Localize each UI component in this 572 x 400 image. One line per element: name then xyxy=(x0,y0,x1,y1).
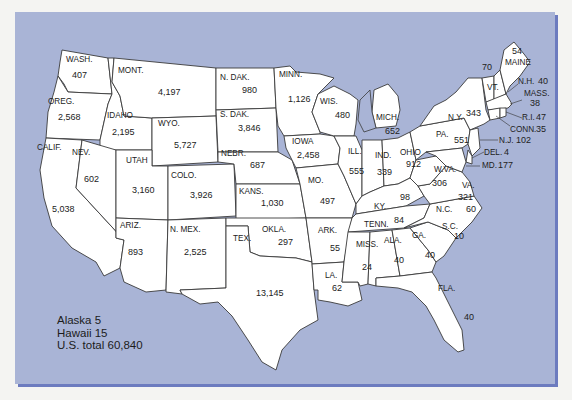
value-miss: 24 xyxy=(362,262,372,272)
value-ind: 339 xyxy=(377,167,392,177)
label-idaho: IDAHO xyxy=(107,111,133,120)
label-conn: CONN. xyxy=(510,125,536,134)
label-ark: ARK. xyxy=(318,226,337,235)
label-fla: FLA. xyxy=(438,284,455,293)
value-vt: 70 xyxy=(482,62,492,72)
label-calif: CALIF. xyxy=(37,143,62,152)
label-ga: GA. xyxy=(412,231,426,240)
label-pa: PA. xyxy=(436,130,449,139)
value-conn: 35 xyxy=(536,124,546,134)
label-mass: MASS. xyxy=(524,89,549,98)
value-pa: 551 xyxy=(454,135,469,145)
value-calif: 5,038 xyxy=(52,204,75,214)
value-mo: 497 xyxy=(320,196,335,206)
label-nmex: N. MEX. xyxy=(170,225,200,234)
label-wis: WIS. xyxy=(320,97,338,106)
value-ri: 47 xyxy=(536,112,546,122)
label-md: MD. xyxy=(482,161,497,170)
value-ill: 555 xyxy=(349,166,364,176)
label-nev: NEV. xyxy=(72,148,90,157)
label-maine: MAINE xyxy=(505,58,531,67)
label-minn: MINN. xyxy=(279,70,302,79)
value-mont: 4,197 xyxy=(158,87,181,97)
value-iowa: 2,458 xyxy=(297,150,320,160)
value-ny: 343 xyxy=(466,108,481,118)
label-ndak: N. DAK. xyxy=(220,73,250,82)
label-ala: ALA. xyxy=(384,236,402,245)
state-rhode-island xyxy=(500,108,506,118)
label-miss: MISS. xyxy=(356,240,378,249)
label-tex: TEX. xyxy=(233,234,251,243)
value-nj: 102 xyxy=(516,135,531,145)
label-mich: MICH. xyxy=(376,113,399,122)
legend-alaska: Alaska 5 xyxy=(57,314,143,327)
label-sc: S.C. xyxy=(442,222,458,231)
label-ohio: OHIO xyxy=(400,148,421,157)
label-colo: COLO. xyxy=(171,171,196,180)
value-md: 177 xyxy=(498,160,513,170)
value-mich: 652 xyxy=(385,126,400,136)
value-wash: 407 xyxy=(72,70,87,80)
label-okla: OKLA. xyxy=(262,225,286,234)
label-mont: MONT. xyxy=(118,66,143,75)
label-iowa: IOWA xyxy=(292,137,314,146)
label-va: VA. xyxy=(462,181,475,190)
value-mass: 38 xyxy=(530,98,540,108)
label-utah: UTAH xyxy=(126,156,148,165)
label-la: LA. xyxy=(325,271,337,280)
value-sdak: 3,846 xyxy=(238,123,261,133)
value-kans: 1,030 xyxy=(261,198,284,208)
label-ind: IND. xyxy=(375,151,391,160)
label-nc: N.C. xyxy=(436,205,452,214)
value-ala: 40 xyxy=(394,255,404,265)
legend-hawaii: Hawaii 15 xyxy=(57,327,143,340)
value-nh: 40 xyxy=(538,76,548,86)
label-ill: ILL. xyxy=(348,147,362,156)
value-del: 4 xyxy=(504,147,509,157)
state-new-jersey xyxy=(468,128,480,156)
value-ark: 55 xyxy=(330,243,340,253)
label-vt: VT. xyxy=(487,83,499,92)
label-tenn: TENN. xyxy=(364,220,389,229)
label-mo: MO. xyxy=(308,176,323,185)
value-la: 62 xyxy=(332,283,342,293)
value-nmex: 2,525 xyxy=(184,247,207,257)
value-fla: 40 xyxy=(464,312,474,322)
label-sdak: S. DAK. xyxy=(220,110,249,119)
value-idaho: 2,195 xyxy=(112,127,135,137)
label-wyo: WYO. xyxy=(158,119,180,128)
map-legend: Alaska 5 Hawaii 15 U.S. total 60,840 xyxy=(57,314,143,352)
value-minn: 1,126 xyxy=(288,94,311,104)
label-nebr: NEBR. xyxy=(221,149,246,158)
label-del: DEL. xyxy=(484,148,502,157)
label-ri: R.I. xyxy=(522,113,535,122)
state-connecticut xyxy=(488,108,500,120)
value-wva: 306 xyxy=(432,178,447,188)
label-wash: WASH. xyxy=(66,55,93,64)
value-wyo: 5,727 xyxy=(174,140,197,150)
value-utah: 3,160 xyxy=(132,185,155,195)
value-nev: 602 xyxy=(84,174,99,184)
value-ariz: 893 xyxy=(128,247,143,257)
value-nebr: 687 xyxy=(250,160,265,170)
value-sc: 10 xyxy=(454,231,464,241)
value-va: 321 xyxy=(458,192,473,202)
value-ga: 40 xyxy=(425,250,435,260)
legend-total: U.S. total 60,840 xyxy=(57,339,143,352)
value-oreg: 2,568 xyxy=(58,112,81,122)
label-wva: W.VA. xyxy=(434,165,456,174)
value-ndak: 980 xyxy=(242,85,257,95)
value-ky: 98 xyxy=(400,192,410,202)
value-ohio: 912 xyxy=(406,159,421,169)
value-maine: 54 xyxy=(512,46,522,56)
label-oreg: OREG. xyxy=(48,97,74,106)
value-tex: 13,145 xyxy=(256,288,284,298)
label-nh: N.H. xyxy=(518,77,534,86)
label-kans: KANS. xyxy=(239,187,264,196)
value-okla: 297 xyxy=(278,237,293,247)
label-ariz: ARIZ. xyxy=(120,221,141,230)
label-ny: N.Y. xyxy=(448,113,463,122)
label-nj: N.J. xyxy=(499,136,514,145)
label-ky: KY. xyxy=(374,202,386,211)
value-colo: 3,926 xyxy=(190,190,213,200)
